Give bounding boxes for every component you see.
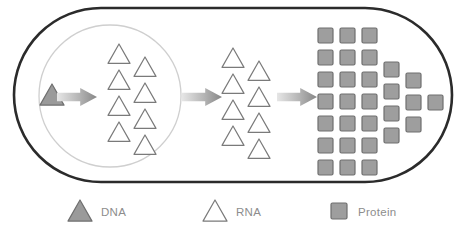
protein-square [318, 138, 333, 153]
protein-square [384, 128, 399, 143]
legend-rna-marker-icon [203, 200, 227, 221]
protein-square [318, 50, 333, 65]
legend: DNARNAProtein [68, 200, 397, 221]
protein-square [340, 138, 355, 153]
protein-square [384, 106, 399, 121]
legend-item-protein: Protein [331, 203, 397, 219]
protein-square [362, 94, 377, 109]
protein-square [340, 116, 355, 131]
protein-square [318, 160, 333, 175]
protein-square [362, 160, 377, 175]
protein-square [318, 94, 333, 109]
protein-square [362, 50, 377, 65]
protein-square [340, 94, 355, 109]
protein-square [362, 138, 377, 153]
legend-item-label: DNA [101, 206, 126, 218]
protein-square [340, 72, 355, 87]
protein-square [318, 28, 333, 43]
diagram-canvas: DNARNAProtein [0, 0, 466, 234]
protein-square [340, 28, 355, 43]
legend-item-label: Protein [358, 206, 397, 218]
protein-square [318, 116, 333, 131]
legend-item-label: RNA [236, 206, 261, 218]
protein-square [384, 84, 399, 99]
protein-square [318, 72, 333, 87]
protein-square [362, 28, 377, 43]
protein-square [428, 95, 443, 110]
legend-protein-marker-icon [331, 203, 347, 219]
protein-square [340, 50, 355, 65]
protein-square [340, 160, 355, 175]
protein-square [384, 62, 399, 77]
protein-square [362, 72, 377, 87]
protein-square [362, 116, 377, 131]
protein-square [406, 117, 421, 132]
legend-dna-marker-icon [68, 200, 92, 221]
legend-item-dna: DNA [68, 200, 126, 221]
cell-diagram: DNARNAProtein [0, 0, 466, 234]
legend-item-rna: RNA [203, 200, 261, 221]
protein-square [406, 95, 421, 110]
protein-square [406, 73, 421, 88]
